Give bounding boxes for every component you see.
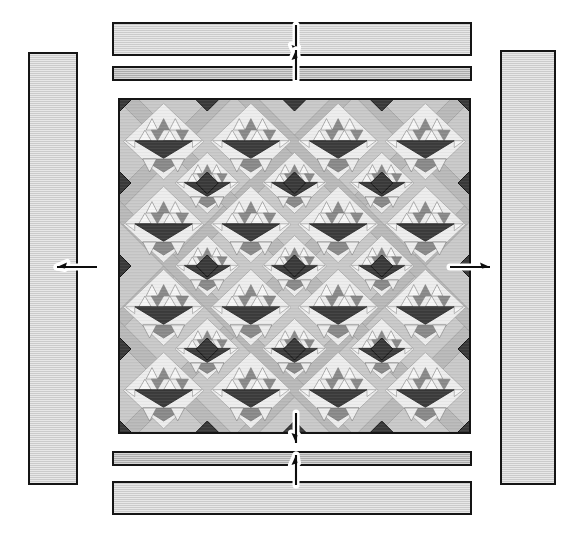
border-strip-top-inner xyxy=(112,66,472,81)
quilt-pattern xyxy=(120,100,469,432)
border-strip-bottom-inner xyxy=(112,451,472,466)
border-strip-top-outer xyxy=(112,22,472,56)
border-strip-right-outer xyxy=(500,50,556,485)
quilt-center-panel xyxy=(118,98,471,434)
border-strip-left-outer xyxy=(28,52,78,485)
quilt-diagram-canvas xyxy=(0,0,583,540)
border-strip-bottom-outer xyxy=(112,481,472,515)
